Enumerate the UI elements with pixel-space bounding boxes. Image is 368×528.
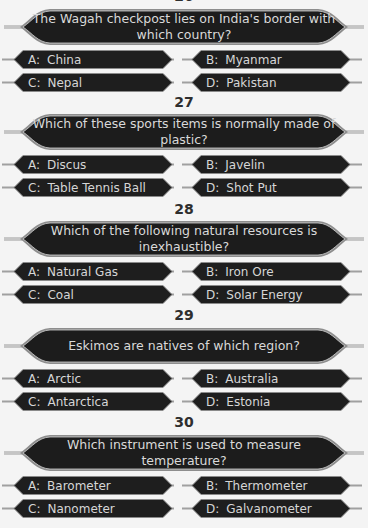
option-b[interactable]: B:Javelin [182,155,362,174]
option-label: A:China [28,50,81,69]
option-text: Coal [47,288,73,302]
option-text: Shot Put [226,181,276,195]
option-a[interactable]: A:China [2,50,174,69]
option-a[interactable]: A:Natural Gas [2,262,174,281]
option-letter: B: [206,53,218,67]
question-number: 27 [0,93,368,111]
option-letter: D: [206,395,219,409]
option-text: China [47,53,81,67]
question-banner: Which of these sports items is normally … [0,113,368,151]
question-number: 26 [0,0,368,5]
option-text: Iron Ore [225,265,273,279]
question-banner: Eskimos are natives of which region? [0,327,368,365]
option-label: B:Thermometer [206,476,307,495]
question-number: 30 [0,413,368,431]
option-letter: A: [28,265,40,279]
option-c[interactable]: C:Nanometer [2,499,174,518]
option-text: Arctic [47,372,81,386]
option-letter: B: [206,265,218,279]
option-text: Nanometer [47,502,114,516]
option-label: A:Natural Gas [28,262,118,281]
question-banner: Which instrument is used to measure temp… [0,434,368,472]
question-number: 28 [0,200,368,218]
option-text: Table Tennis Ball [47,181,145,195]
option-label: A:Arctic [28,369,81,388]
option-letter: C: [28,181,40,195]
question-text: Eskimos are natives of which region? [26,327,342,365]
option-label: B:Myanmar [206,50,282,69]
option-text: Thermometer [225,479,307,493]
question-number: 29 [0,306,368,324]
option-letter: A: [28,479,40,493]
option-c[interactable]: C:Table Tennis Ball [2,178,174,197]
option-label: C:Nepal [28,73,82,92]
option-text: Galvanometer [226,502,311,516]
question-banner: The Wagah checkpost lies on India's bord… [0,8,368,46]
option-letter: A: [28,53,40,67]
option-letter: C: [28,395,40,409]
option-label: B:Iron Ore [206,262,274,281]
option-letter: C: [28,76,40,90]
option-b[interactable]: B:Iron Ore [182,262,362,281]
option-c[interactable]: C:Antarctica [2,392,174,411]
option-a[interactable]: A:Discus [2,155,174,174]
option-label: C:Nanometer [28,499,115,518]
question-banner: Which of the following natural resources… [0,220,368,258]
option-text: Pakistan [226,76,276,90]
option-letter: B: [206,158,218,172]
option-letter: D: [206,502,219,516]
option-a[interactable]: A:Barometer [2,476,174,495]
question-text: Which of these sports items is normally … [26,113,342,151]
option-label: B:Australia [206,369,278,388]
option-label: D:Shot Put [206,178,277,197]
option-text: Antarctica [47,395,108,409]
option-b[interactable]: B:Australia [182,369,362,388]
option-d[interactable]: D:Galvanometer [182,499,362,518]
option-d[interactable]: D:Estonia [182,392,362,411]
option-letter: C: [28,502,40,516]
option-c[interactable]: C:Coal [2,285,174,304]
option-label: B:Javelin [206,155,265,174]
option-letter: D: [206,76,219,90]
option-a[interactable]: A:Arctic [2,369,174,388]
option-d[interactable]: D:Shot Put [182,178,362,197]
option-text: Natural Gas [47,265,118,279]
option-label: C:Coal [28,285,74,304]
option-letter: D: [206,181,219,195]
option-letter: A: [28,158,40,172]
option-text: Nepal [47,76,82,90]
option-label: D:Solar Energy [206,285,303,304]
option-text: Discus [47,158,86,172]
option-text: Javelin [225,158,265,172]
question-text: The Wagah checkpost lies on India's bord… [26,8,342,46]
option-label: D:Pakistan [206,73,277,92]
option-label: A:Barometer [28,476,111,495]
option-text: Myanmar [225,53,281,67]
option-text: Australia [225,372,278,386]
option-label: C:Table Tennis Ball [28,178,146,197]
option-letter: B: [206,479,218,493]
option-label: A:Discus [28,155,86,174]
question-text: Which instrument is used to measure temp… [26,434,342,472]
option-d[interactable]: D:Solar Energy [182,285,362,304]
option-b[interactable]: B:Myanmar [182,50,362,69]
option-letter: A: [28,372,40,386]
option-text: Estonia [226,395,270,409]
option-text: Solar Energy [226,288,302,302]
option-label: D:Estonia [206,392,270,411]
option-letter: C: [28,288,40,302]
option-letter: B: [206,372,218,386]
option-label: D:Galvanometer [206,499,312,518]
option-d[interactable]: D:Pakistan [182,73,362,92]
option-letter: D: [206,288,219,302]
option-c[interactable]: C:Nepal [2,73,174,92]
question-text: Which of the following natural resources… [26,220,342,258]
option-label: C:Antarctica [28,392,109,411]
option-b[interactable]: B:Thermometer [182,476,362,495]
option-text: Barometer [47,479,111,493]
